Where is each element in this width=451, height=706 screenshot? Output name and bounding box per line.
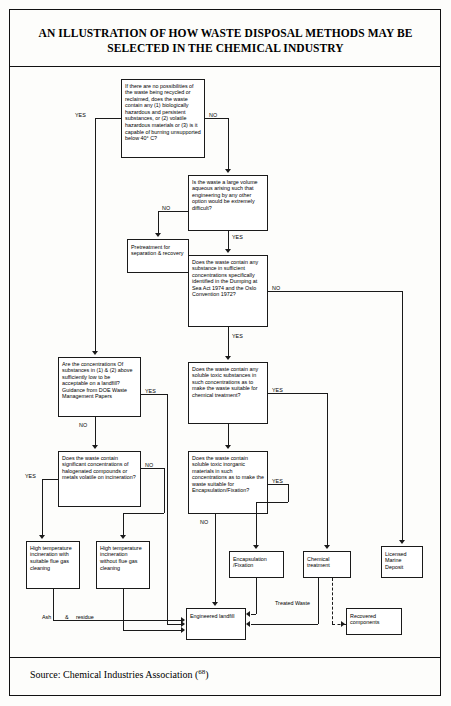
source-text: Source: Chemical Industries Association … — [30, 669, 198, 680]
label-q4-no: NO — [78, 422, 88, 428]
edge-q6-no-vert2 — [123, 513, 124, 535]
arrow-q7-no-to-landfill — [212, 602, 218, 606]
edge-q7-yes-vert — [288, 484, 289, 502]
edge-q2-no-vert — [158, 211, 159, 233]
arrow-q3-yes-to-q5 — [225, 356, 231, 360]
terminal-recovered-components[interactable]: Recovered components — [346, 608, 402, 635]
terminal-incineration-with-cleaning[interactable]: High temperature incineration with suita… — [26, 541, 80, 589]
edge-q5-yes-vert — [327, 393, 328, 545]
edge-q4-yes-to-landfill — [167, 624, 181, 625]
label-ampersand: & — [64, 614, 70, 620]
label-q3-yes: YES — [231, 333, 244, 339]
label-q2-no: NO — [161, 205, 171, 211]
edge-q2-yes-vert — [228, 231, 229, 249]
label-q1-yes: YES — [74, 112, 87, 118]
edge-encapsulation-to-landfill — [251, 614, 256, 615]
arrow-q5-yes-to-chemical — [324, 545, 330, 549]
edge-q1-no — [205, 118, 228, 119]
page-title: AN ILLUSTRATION OF HOW WASTE DISPOSAL ME… — [18, 26, 433, 56]
label-q1-no: NO — [208, 112, 218, 118]
arrow-q3-no-to-marine — [399, 540, 405, 544]
label-q7-no: NO — [199, 519, 209, 525]
arrow-q4-no-to-q6 — [92, 445, 98, 449]
edge-ash-to-landfill — [53, 620, 181, 621]
edge-recovered-dashed-vert — [332, 578, 333, 624]
label-ash: Ash — [41, 614, 52, 620]
title-divider — [10, 66, 440, 67]
decision-q3[interactable]: Does the waste contain any substance in … — [188, 255, 268, 327]
arrow-q2-yes-to-q3 — [225, 249, 231, 253]
edge-q6-no-horiz2 — [123, 513, 164, 514]
edge-q4-yes — [141, 394, 167, 395]
edge-q6-yes — [42, 479, 58, 480]
edge-encapsulation-down — [256, 578, 257, 614]
label-q4-yes: YES — [144, 388, 157, 394]
arrow-recovered-components — [341, 621, 345, 627]
source-caption: Source: Chemical Industries Association … — [30, 668, 209, 680]
terminal-licensed-marine-deposit[interactable]: Licensed Marine Deposit — [381, 546, 423, 578]
edge-q5-yes — [268, 393, 327, 394]
edge-q2-no — [158, 211, 188, 212]
edge-q1-yes — [95, 118, 121, 119]
process-pretreatment[interactable]: Pretreatment for separation & recovery — [127, 239, 189, 273]
edge-q5-no-vert — [228, 424, 229, 445]
decision-q2[interactable]: Is the waste a large volume aqueous aris… — [188, 175, 268, 231]
arrow-q6-no-to-incin-without — [120, 535, 126, 539]
arrow-q6-yes-to-incin-with — [39, 535, 45, 539]
edge-chemical-down — [318, 578, 319, 624]
edge-treated-waste — [251, 624, 318, 625]
decision-q4[interactable]: Are the concentrations Of substances in … — [58, 357, 141, 417]
arrow-q5-no-to-q7 — [225, 445, 231, 449]
edge-q3-no — [268, 291, 402, 292]
arrow-incin-without-to-landfill — [181, 627, 185, 633]
arrow-treated-waste-to-landfill — [246, 621, 250, 627]
edge-q7-no-vert — [215, 514, 216, 602]
edge-q1-no-vert — [228, 118, 229, 169]
edge-q7-yes — [268, 484, 288, 485]
edge-q4-yes-vert — [167, 394, 168, 624]
arrow-q2-no-to-pretreatment — [155, 233, 161, 237]
terminal-chemical-treatment[interactable]: Chemical treatment — [303, 551, 351, 578]
label-treated-waste: Treated Waste — [274, 600, 311, 606]
terminal-engineered-landfill[interactable]: Engineered landfill — [186, 608, 246, 640]
arrow-q1-yes-to-q4 — [92, 351, 98, 355]
decision-q1[interactable]: If there are no possibilities of the was… — [121, 79, 205, 158]
label-q5-yes: YES — [271, 387, 284, 393]
decision-q6[interactable]: Does the waste contain significant conce… — [58, 451, 141, 507]
decision-q5[interactable]: Does the waste contain any soluble toxic… — [188, 362, 268, 424]
edge-incin-without-to-landfill — [123, 630, 181, 631]
edge-q3-no-vert — [402, 291, 403, 540]
source-close-paren: ) — [205, 669, 208, 680]
footer-divider — [10, 657, 440, 658]
label-q7-yes: YES — [271, 478, 284, 484]
edge-q1-yes-vert — [95, 118, 96, 351]
edge-incin-without-down — [123, 589, 124, 630]
edge-q7-yes-horiz2 — [256, 502, 288, 503]
label-q2-yes: YES — [231, 234, 244, 240]
edge-q6-no — [141, 468, 164, 469]
label-residue: residue — [75, 614, 95, 620]
edge-q3-yes-vert — [228, 327, 229, 356]
edge-q6-no-vert — [164, 468, 165, 513]
label-q6-yes: YES — [24, 473, 37, 479]
arrow-ash-to-landfill — [181, 617, 185, 623]
terminal-encapsulation-fixation[interactable]: Encapsulation /Fixation — [229, 551, 284, 578]
terminal-incineration-without-cleaning[interactable]: High temperature incineration without fl… — [96, 541, 150, 589]
diagram-page: AN ILLUSTRATION OF HOW WASTE DISPOSAL ME… — [0, 0, 451, 706]
edge-q4-no-vert — [95, 417, 96, 445]
label-q3-no: NO — [271, 285, 281, 291]
edge-q6-yes-vert — [42, 479, 43, 535]
arrow-encapsulation-to-landfill — [246, 611, 250, 617]
label-q6-no: NO — [144, 462, 154, 468]
arrow-q1-no-to-q2 — [225, 169, 231, 173]
edge-q7-yes-vert2 — [256, 502, 257, 545]
edge-incin-with-down — [53, 589, 54, 620]
arrow-q7-yes-to-encapsulation — [253, 545, 259, 549]
